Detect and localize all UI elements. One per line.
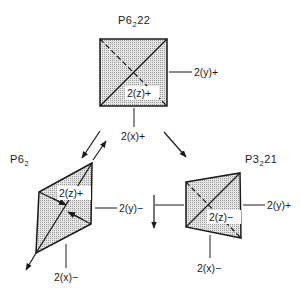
label-x: 2(x)− [54,271,78,283]
label-y: 2(y)+ [267,199,291,211]
label-z: 2(z)+ [59,187,83,199]
label-z: 2(z)− [209,211,233,223]
edge-top-left [82,131,106,160]
node-left: P62 2(z)+ 2(y)− 2(x)− [10,153,143,283]
label-y: 2(y)− [119,202,143,214]
node-left-title: P62 [10,153,29,168]
node-top-title: P6222 [118,14,150,29]
trapezoid-shape [186,173,241,238]
label-x: 2(x)− [197,262,221,274]
label-x: 2(x)+ [121,130,145,142]
label-y: 2(y)+ [194,66,218,78]
node-right-title: P3221 [245,153,277,168]
space-group-diagram: P6222 2(z)+ 2(y)+ 2(x)+ P62 2(z)+ [0,0,300,290]
edge-top-right [164,132,186,157]
node-top: P6222 2(z)+ 2(y)+ 2(x)+ [100,14,218,142]
node-right: P3221 2(z)− 2(y)+ 2(x)− [154,153,291,274]
label-z: 2(z)+ [127,87,151,99]
